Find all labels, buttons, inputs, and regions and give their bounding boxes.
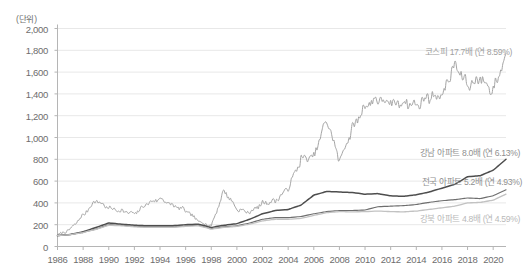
x-tick-label: 2018 [458, 254, 478, 265]
y-tick-label: 0 [4, 241, 48, 252]
x-tick-label: 2002 [253, 254, 273, 265]
series-annotation-nationwide: 전국 아파트 5.2배 (연 4.93%) [422, 175, 522, 187]
x-tick-label: 2004 [278, 254, 298, 265]
y-tick-label: 600 [4, 176, 48, 187]
x-tick-label: 2006 [304, 254, 324, 265]
series-annotation-gangnam: 강남 아파트 8.0배 (연 6.13%) [420, 146, 520, 158]
y-tick-label: 800 [4, 154, 48, 165]
x-tick-label: 1994 [150, 254, 170, 265]
x-tick-label: 1992 [124, 254, 144, 265]
x-axis-tick-marks [58, 247, 494, 251]
x-tick-label: 1996 [176, 254, 196, 265]
y-tick-label: 1,600 [4, 67, 48, 78]
x-tick-label: 1986 [48, 254, 68, 265]
chart-page: (단위) 2,0001,8001,6001,4001,2001,00080060… [0, 0, 530, 273]
y-tick-label: 2,000 [4, 23, 48, 34]
y-tick-label: 1,800 [4, 45, 48, 56]
x-tick-label: 1988 [73, 254, 93, 265]
x-tick-label: 1990 [99, 254, 119, 265]
y-tick-label: 1,000 [4, 132, 48, 143]
x-tick-label: 2014 [406, 254, 426, 265]
y-tick-label: 1,200 [4, 110, 48, 121]
series-line-1 [58, 159, 507, 235]
x-tick-label: 2016 [432, 254, 452, 265]
x-tick-label: 2020 [483, 254, 503, 265]
x-tick-label: 2010 [355, 254, 375, 265]
series-annotation-kospi: 코스피 17.7배 (연 8.59%) [425, 45, 512, 57]
y-tick-label: 200 [4, 219, 48, 230]
series-annotation-gangbuk: 강북 아파트 4.8배 (연 4.59%) [420, 212, 520, 224]
y-tick-label: 1,400 [4, 88, 48, 99]
chart-plot-area [0, 0, 530, 273]
x-tick-label: 2000 [227, 254, 247, 265]
y-tick-label: 400 [4, 197, 48, 208]
x-tick-label: 2008 [329, 254, 349, 265]
x-tick-label: 2012 [381, 254, 401, 265]
series-lines [58, 54, 507, 237]
x-tick-label: 1998 [201, 254, 221, 265]
